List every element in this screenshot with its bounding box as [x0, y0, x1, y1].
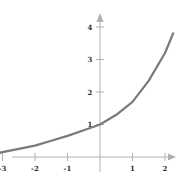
- y-tick-label: 3: [88, 55, 93, 64]
- x-tick-label: -3: [0, 164, 7, 173]
- y-axis-arrow-icon: [97, 13, 104, 22]
- x-axis: [12, 154, 176, 161]
- x-tick-label: -1: [64, 164, 72, 173]
- exponential-chart: -3-2-112 1234: [0, 0, 180, 187]
- data-curve: [0, 34, 173, 154]
- y-ticks: 1234: [88, 23, 104, 130]
- x-tick-label: 2: [163, 164, 168, 173]
- x-tick-label: 1: [130, 164, 135, 173]
- x-axis-arrow-icon: [168, 154, 176, 161]
- y-tick-label: 4: [88, 23, 93, 32]
- x-tick-label: -2: [31, 164, 39, 173]
- x-ticks: -3-2-112: [0, 153, 168, 173]
- y-tick-label: 2: [88, 88, 93, 97]
